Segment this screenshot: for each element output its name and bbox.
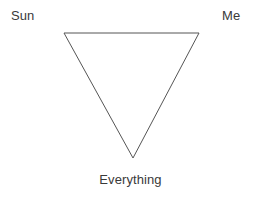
triangle-shape-container (0, 0, 260, 201)
downward-triangle-icon (64, 33, 199, 158)
label-everything: Everything (0, 173, 260, 187)
label-sun: Sun (11, 9, 34, 23)
label-me: Me (222, 9, 240, 23)
diagram-canvas: Sun Me Everything (0, 0, 260, 201)
